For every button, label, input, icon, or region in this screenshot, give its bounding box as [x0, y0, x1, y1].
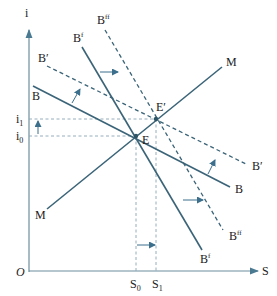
b-shift-arrow-left — [72, 89, 80, 103]
bff-curve — [105, 30, 223, 230]
svg-text:Bff: Bff — [97, 13, 110, 27]
b-curve — [33, 86, 230, 187]
s0-label: S0 — [130, 277, 141, 293]
svg-text:i1: i1 — [16, 112, 23, 128]
bff-label-top: Bff — [97, 13, 110, 27]
b-label-right: B — [235, 182, 243, 196]
y-axis-label: i — [25, 6, 29, 20]
b-label-left: B — [32, 89, 40, 103]
bff-label-bottom: Bff — [229, 229, 242, 243]
svg-text:S0: S0 — [130, 277, 141, 293]
m-label-lower: M — [35, 208, 46, 222]
b-prime-label-left: B′ — [38, 51, 49, 65]
e-prime-label: E′ — [156, 100, 166, 114]
bf-label-bottom: Bf — [200, 252, 211, 266]
svg-text:Bf: Bf — [200, 252, 211, 266]
b-prime-curve — [47, 66, 248, 165]
origin-label: O — [16, 265, 25, 279]
s1-label: S1 — [152, 277, 163, 293]
i1-label: i1 — [16, 112, 23, 128]
point-e — [134, 134, 138, 138]
is-lm-diagram: i S O i1 i0 S0 S1 M M B B B′ B′ Bf Bf Bf… — [0, 0, 277, 296]
i0-label: i0 — [16, 129, 23, 145]
svg-text:S1: S1 — [152, 277, 163, 293]
bf-curve — [82, 47, 202, 250]
point-e-prime — [154, 117, 158, 121]
b-shift-arrow-right — [208, 160, 215, 174]
m-label-upper: M — [226, 55, 237, 69]
b-prime-label-right: B′ — [252, 159, 263, 173]
svg-text:Bff: Bff — [229, 229, 242, 243]
svg-text:Bf: Bf — [73, 31, 84, 45]
svg-text:i0: i0 — [16, 129, 23, 145]
bf-label-top: Bf — [73, 31, 84, 45]
x-axis-label: S — [262, 264, 269, 278]
e-label: E — [142, 133, 149, 147]
